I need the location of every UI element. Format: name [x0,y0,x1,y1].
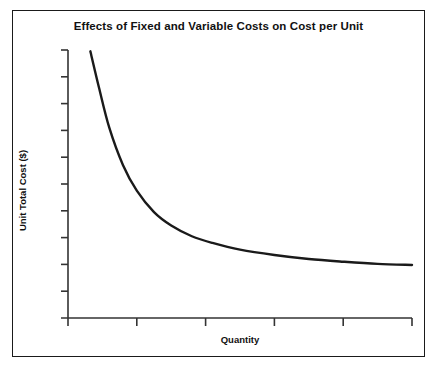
y-axis-label: Unit Total Cost ($) [17,131,28,251]
chart-title: Effects of Fixed and Variable Costs on C… [12,20,425,32]
x-axis-label: Quantity [68,334,412,345]
chart-figure: Effects of Fixed and Variable Costs on C… [0,0,437,369]
figure-border [12,10,425,357]
